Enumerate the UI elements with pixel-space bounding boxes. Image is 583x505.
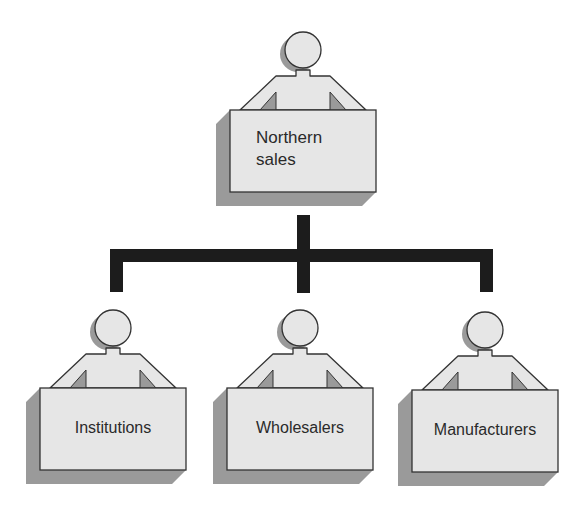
node-label-line2: sales	[256, 149, 402, 170]
node-manufacturers: Manufacturers	[412, 280, 558, 480]
node-wholesalers: Wholesalers	[227, 278, 373, 478]
node-label: Wholesalers	[227, 417, 373, 438]
person-icon	[412, 280, 558, 480]
node-label: Institutions	[40, 417, 186, 438]
node-label-line1: Northern	[256, 127, 402, 148]
node-institutions: Institutions	[40, 278, 186, 478]
person-icon	[40, 278, 186, 478]
person-icon	[230, 0, 376, 200]
connector-bar	[110, 249, 493, 262]
node-northern-sales: Northern sales	[230, 0, 376, 200]
node-label: Manufacturers	[412, 419, 558, 440]
person-icon	[227, 278, 373, 478]
